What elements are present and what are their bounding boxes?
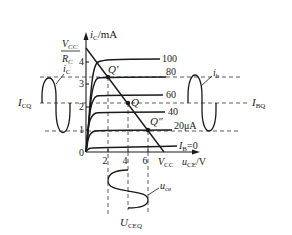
uceq-label: UCEQ: [120, 216, 142, 230]
x-tick-2: 2: [103, 155, 108, 166]
curve-label-60: 60: [166, 89, 176, 100]
x-axis-label: uCE/V: [182, 156, 207, 169]
curve-label-40: 40: [168, 106, 178, 117]
curve-ib-100: [86, 59, 160, 152]
curve-ib-20: [86, 130, 172, 152]
y-axis-label: iC/mA: [90, 28, 117, 42]
curve-label-20ua: 20μA: [174, 120, 197, 131]
q-double-prime-point: [146, 128, 150, 132]
x-tick-6: 6: [143, 155, 148, 166]
ibq-label: IBQ: [251, 96, 265, 110]
curve-label-80: 80: [166, 66, 176, 77]
q-prime-label: Q′: [108, 63, 119, 75]
y-tick-4: 4: [79, 56, 84, 67]
q-label: Q: [131, 96, 139, 108]
ib-label-leader: [201, 76, 212, 86]
axes: [84, 32, 201, 155]
q-prime-point: [106, 75, 110, 79]
guide-lines: [40, 77, 250, 215]
y-tick-1: 1: [79, 124, 84, 135]
bjt-load-line-diagram: iC/mA VCC RC 4 3 2 1 0 2 4 6 VCC uCE/V 1…: [0, 0, 292, 235]
q-point: [126, 101, 130, 105]
curve-label-100: 100: [162, 53, 177, 64]
x-intercept-vcc: VCC: [158, 156, 174, 169]
ic-waveform: [42, 78, 70, 133]
ib-waveform-label: ib: [213, 67, 220, 80]
y-tick-3: 3: [79, 78, 84, 89]
y-tick-labels: 4 3 2 1 0: [79, 56, 84, 158]
uce-label-leader: [148, 188, 159, 195]
q-double-prime-label: Q″: [150, 115, 163, 127]
dc-load-line: [86, 48, 164, 152]
vcc-over-rc-numerator: VCC: [62, 38, 78, 51]
y-tick-2: 2: [79, 101, 84, 112]
icq-label: ICQ: [17, 96, 31, 110]
y-axis-arrow-icon: [84, 32, 89, 40]
y-tick-0: 0: [79, 147, 84, 158]
x-tick-labels: 2 4 6: [103, 155, 148, 166]
uce-waveform-label: uce: [160, 180, 171, 193]
ic-label-leader: [56, 74, 64, 84]
x-tick-4: 4: [123, 155, 128, 166]
